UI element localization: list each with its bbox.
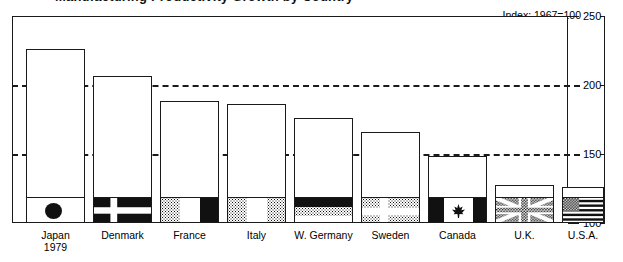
label-italy-name: Italy: [247, 229, 266, 241]
category-label-france: France: [160, 230, 219, 242]
label-canada-name: Canada: [439, 229, 476, 241]
category-label-canada: Canada: [428, 230, 487, 242]
label-france-name: France: [173, 229, 206, 241]
category-label-italy: Italy: [227, 230, 286, 242]
denmark-flag-icon: [93, 197, 152, 223]
y-axis-label-150: 150: [583, 148, 601, 160]
page-title: Manufacturing Productivity Growth by Cou…: [55, 0, 353, 4]
united-kingdom-flag-icon: [495, 197, 554, 223]
productivity-bar-chart: Manufacturing Productivity Growth by Cou…: [0, 0, 623, 262]
category-label-denmark: Denmark: [93, 230, 152, 242]
category-label-japan: Japan 1979: [26, 230, 85, 253]
category-label-sweden: Sweden: [361, 230, 420, 242]
west-germany-flag-icon: [294, 197, 353, 223]
y-axis-label-200: 200: [583, 79, 601, 91]
japan-flag-icon: [26, 197, 85, 223]
label-japan-year: 1979: [26, 242, 85, 254]
category-label-usa: U.S.A.: [558, 230, 608, 242]
label-uk-name: U.K.: [514, 229, 534, 241]
italy-flag-icon: [227, 197, 286, 223]
label-wgermany-name: W. Germany: [294, 229, 352, 241]
axis-dash-100: [568, 223, 579, 224]
category-label-wgermany: W. Germany: [289, 230, 358, 242]
axis-dash-250: [568, 16, 579, 17]
label-denmark-name: Denmark: [101, 229, 144, 241]
france-flag-icon: [160, 197, 219, 223]
y-axis-spine: [604, 16, 605, 223]
chart-title-clipped: Manufacturing Productivity Growth by Cou…: [0, 0, 623, 5]
label-japan-name: Japan: [41, 229, 70, 241]
united-states-flag-icon: [562, 197, 604, 223]
label-usa-name: U.S.A.: [568, 229, 598, 241]
y-axis-label-250: 250: [583, 10, 601, 22]
label-sweden-name: Sweden: [372, 229, 410, 241]
sweden-flag-icon: [361, 197, 420, 223]
canada-flag-icon: [428, 197, 487, 223]
category-label-uk: U.K.: [495, 230, 554, 242]
